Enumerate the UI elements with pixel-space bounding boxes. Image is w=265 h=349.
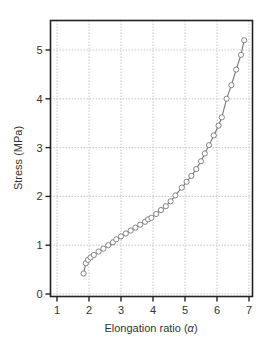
data-point-marker	[202, 151, 207, 156]
plot-frame	[51, 21, 253, 297]
x-tick-label: 6	[214, 304, 220, 316]
data-point-marker	[179, 185, 184, 190]
data-point-marker	[163, 204, 168, 209]
y-axis-label: Stress (MPa)	[12, 126, 24, 190]
y-tick-label: 3	[36, 142, 42, 154]
data-point-marker	[224, 96, 229, 101]
x-tick-label: 1	[54, 304, 60, 316]
y-tick-label: 0	[36, 288, 42, 300]
data-point-marker	[216, 123, 221, 128]
data-point-marker	[133, 225, 138, 230]
data-point-marker	[128, 228, 133, 233]
data-point-marker	[81, 271, 86, 276]
data-point-marker	[138, 222, 143, 227]
x-tick-label: 5	[182, 304, 188, 316]
x-tick-label: 7	[246, 304, 252, 316]
data-series	[81, 38, 247, 276]
data-point-marker	[114, 237, 119, 242]
y-tick-label: 5	[36, 44, 42, 56]
series-line	[84, 40, 245, 273]
data-point-marker	[184, 179, 189, 184]
data-point-marker	[106, 243, 111, 248]
x-axis-ticks: 1234567	[54, 297, 252, 316]
data-point-marker	[154, 211, 159, 216]
data-point-marker	[123, 231, 128, 236]
data-point-marker	[91, 252, 96, 257]
data-point-marker	[96, 249, 101, 254]
y-tick-label: 4	[36, 93, 42, 105]
x-tick-label: 4	[150, 304, 156, 316]
x-tick-label: 2	[86, 304, 92, 316]
data-point-marker	[173, 193, 178, 198]
data-point-marker	[118, 234, 123, 239]
y-axis-ticks: 012345	[36, 44, 50, 300]
x-tick-label: 3	[118, 304, 124, 316]
data-point-marker	[211, 133, 216, 138]
grid-lines	[51, 21, 253, 297]
stress-elongation-chart: 1234567 012345 Elongation ratio (α) Stre…	[0, 0, 265, 349]
data-point-marker	[158, 207, 163, 212]
data-point-marker	[149, 215, 154, 220]
data-point-marker	[101, 246, 106, 251]
data-point-marker	[238, 52, 243, 57]
data-point-marker	[206, 143, 211, 148]
y-tick-label: 2	[36, 190, 42, 202]
data-point-marker	[168, 199, 173, 204]
x-axis-label: Elongation ratio (α)	[104, 322, 197, 334]
data-point-marker	[234, 67, 239, 72]
data-point-marker	[229, 83, 234, 88]
data-point-marker	[189, 173, 194, 178]
data-point-marker	[219, 115, 224, 120]
data-point-marker	[198, 159, 203, 164]
data-point-marker	[242, 38, 247, 43]
data-point-marker	[194, 166, 199, 171]
y-tick-label: 1	[36, 239, 42, 251]
